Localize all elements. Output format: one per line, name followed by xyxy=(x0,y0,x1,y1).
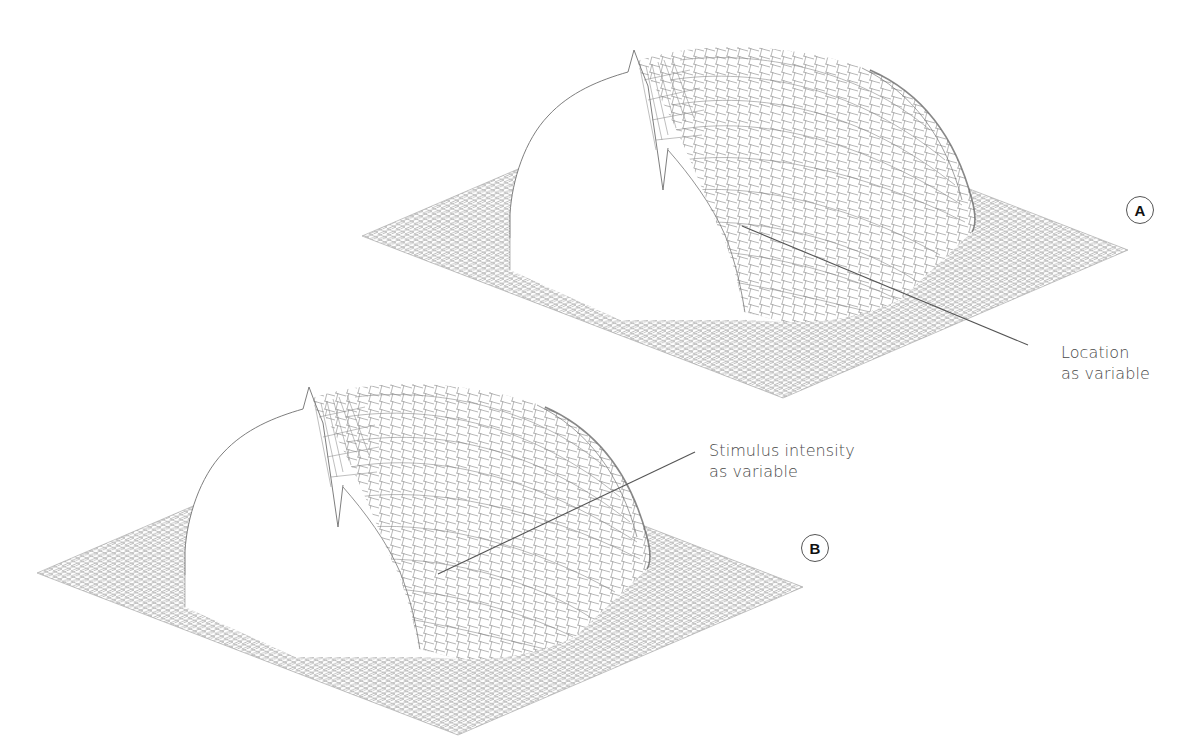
panel-a-surface xyxy=(362,47,1128,398)
panel-b-annotation: Stimulus intensity as variable xyxy=(709,440,855,482)
panel-a-badge-letter: A xyxy=(1135,202,1146,219)
panel-b-surface xyxy=(37,384,803,735)
panel-a-annotation-line2: as variable xyxy=(1061,363,1150,384)
panel-a-annotation-line1: Location xyxy=(1061,342,1150,363)
panel-a-annotation: Location as variable xyxy=(1061,342,1150,384)
panel-b-annotation-line2: as variable xyxy=(709,461,855,482)
panel-b-annotation-line1: Stimulus intensity xyxy=(709,440,855,461)
panel-b-badge: B xyxy=(801,534,829,562)
figure-canvas xyxy=(0,0,1198,756)
panel-b-badge-letter: B xyxy=(810,540,821,557)
panel-a-badge: A xyxy=(1126,196,1154,224)
